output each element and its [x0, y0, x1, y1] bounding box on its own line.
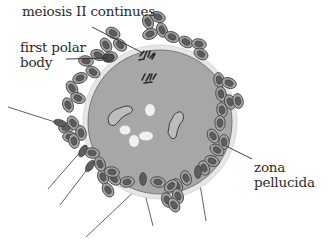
label-first-polar-line1: first polar	[20, 40, 86, 55]
label-meiosis-ii-continues: meiosis II continues	[22, 4, 155, 19]
label-first-polar-line2: body	[20, 55, 86, 70]
diagram-artwork	[0, 0, 336, 239]
label-zona-pellucida: zona pellucida	[254, 160, 315, 190]
oocyte-diagram: meiosis II continues first polar body zo…	[0, 0, 336, 239]
label-zona-line1: zona	[254, 160, 315, 175]
label-first-polar-body: first polar body	[20, 40, 86, 70]
label-zona-line2: pellucida	[254, 175, 315, 190]
